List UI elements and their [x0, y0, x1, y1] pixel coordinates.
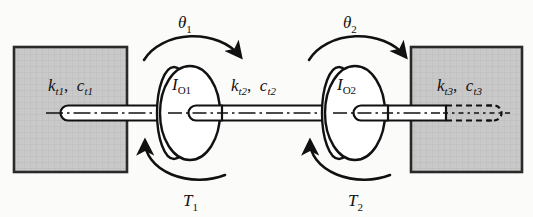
torsional-system-diagram: kt1, ct1 kt2, ct2 kt3, ct3 IO1 IO2 θ1 θ2…: [0, 0, 533, 217]
io1-subscript: O1: [178, 84, 191, 96]
torque-1-label: T1: [183, 191, 198, 213]
theta-2-rotation-arc: [309, 36, 405, 60]
disk-1: [157, 66, 222, 160]
theta-2-arc-arrow: [309, 36, 405, 60]
theta1-symbol: θ: [178, 13, 186, 32]
disk-2: [322, 66, 388, 160]
t1-subscript: 1: [192, 201, 198, 213]
theta1-subscript: 1: [186, 23, 192, 35]
io2-subscript: O2: [343, 84, 356, 96]
kt1-subscript: t1: [56, 85, 65, 97]
theta-1-label: θ1: [178, 13, 192, 35]
theta-1-arc-arrow: [144, 36, 240, 60]
ct1-subscript: t1: [84, 85, 93, 97]
theta-1-rotation-arc: [144, 36, 240, 60]
theta2-subscript: 2: [351, 23, 357, 35]
ct2-subscript: t2: [267, 85, 276, 97]
theta2-symbol: θ: [343, 13, 351, 32]
theta-2-label: θ2: [343, 13, 357, 35]
ct3-subscript: t3: [473, 85, 482, 97]
middle-shaft-stiffness-damping-label: kt2, ct2: [231, 76, 276, 97]
figure-canvas: kt1, ct1 kt2, ct2 kt3, ct3 IO1 IO2 θ1 θ2…: [0, 0, 533, 217]
torque-2-label: T2: [348, 191, 363, 213]
t2-subscript: 2: [357, 201, 363, 213]
